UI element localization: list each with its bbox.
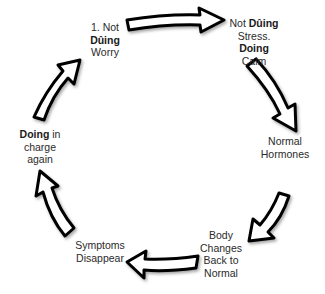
arrow-icon-3-to-4 <box>249 193 289 241</box>
node-text: Disappear <box>76 252 124 264</box>
node-line: Not Dûing <box>222 17 286 30</box>
node-not-duing-worry: 1. Not Dûing Worry <box>82 21 128 59</box>
node-text: Normal <box>204 267 238 279</box>
node-text: Back to <box>203 254 238 266</box>
node-line: Normal <box>197 267 245 280</box>
node-not-duing-stress-doing-calm: Not Dûing Stress. Doing Calm <box>222 17 286 67</box>
arrow-icon-1-to-2 <box>127 8 224 32</box>
node-line: Changes <box>197 242 245 255</box>
node-text-bold: Doing <box>20 128 50 140</box>
node-text: again <box>27 153 53 165</box>
node-line: Body <box>197 229 245 242</box>
arrow-icon-4-to-5 <box>127 251 198 278</box>
node-line: Doing <box>222 42 286 55</box>
arrow-icon-2-to-3 <box>247 59 296 131</box>
node-line: Symptoms <box>70 239 130 252</box>
node-line: charge <box>14 141 66 154</box>
node-text: Symptoms <box>75 239 125 251</box>
node-line: 1. Not <box>82 21 128 34</box>
node-line: again <box>14 153 66 166</box>
node-line: Dûing <box>82 34 128 47</box>
node-line: Normal <box>252 135 318 148</box>
node-text-bold: Doing <box>239 42 269 54</box>
node-line: Back to <box>197 254 245 267</box>
node-symptoms-disappear: Symptoms Disappear <box>70 239 130 264</box>
node-line: Doing in <box>14 128 66 141</box>
node-text: in <box>49 128 60 140</box>
node-text-bold: Dûing <box>249 17 279 29</box>
node-text: Normal <box>268 135 302 147</box>
node-line: Calm <box>222 55 286 68</box>
node-text: Not <box>229 17 248 29</box>
node-text: Hormones <box>261 148 309 160</box>
node-normal-hormones: Normal Hormones <box>252 135 318 160</box>
node-doing-in-charge-again: Doing in charge again <box>14 128 66 166</box>
node-text: charge <box>24 141 56 153</box>
node-body-changes-back-to-normal: Body Changes Back to Normal <box>197 229 245 279</box>
node-text: Calm <box>242 55 267 67</box>
node-text-bold: Dûing <box>90 34 120 46</box>
node-text: Body <box>209 229 233 241</box>
node-text: Stress. <box>238 30 271 42</box>
node-text: Changes <box>200 242 242 254</box>
node-line: Hormones <box>252 148 318 161</box>
arrow-icon-5-to-6 <box>36 171 74 236</box>
arrow-icon-6-to-1 <box>34 60 80 120</box>
node-text: Worry <box>91 46 119 58</box>
node-line: Worry <box>82 46 128 59</box>
node-line: Disappear <box>70 252 130 265</box>
node-text: 1. Not <box>91 21 119 33</box>
node-line: Stress. <box>222 30 286 43</box>
